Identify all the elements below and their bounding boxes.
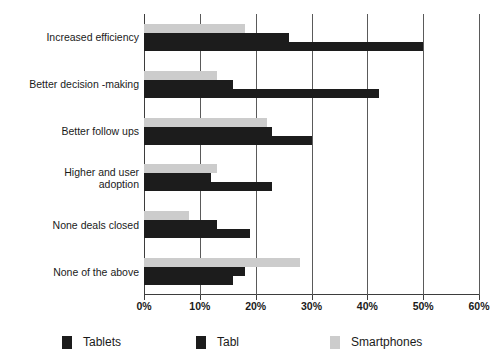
category-label: Better decision -making — [5, 78, 139, 90]
bar-tabl — [144, 267, 245, 276]
category-label: Better follow ups — [5, 125, 139, 137]
bar-group — [144, 248, 479, 295]
bar-group — [144, 155, 479, 202]
bar-tablets — [144, 182, 272, 191]
bar-smartphones — [144, 118, 267, 127]
tick-label-0: 0% — [136, 300, 151, 312]
legend-label: Tabl — [217, 335, 239, 349]
bar-tabl — [144, 127, 272, 136]
bar-tablets — [144, 42, 423, 51]
tick-label-30: 30% — [301, 300, 322, 312]
category-label: None of the above — [5, 266, 139, 278]
bar-group — [144, 14, 479, 61]
legend-swatch-icon — [330, 336, 340, 349]
legend-item-smartphones[interactable]: Smartphones — [330, 335, 422, 349]
tick-label-40: 40% — [357, 300, 378, 312]
bar-group — [144, 201, 479, 248]
tick-label-60: 60% — [468, 300, 489, 312]
bar-group — [144, 108, 479, 155]
legend-swatch-icon — [62, 336, 72, 349]
bar-tabl — [144, 220, 217, 229]
bar-smartphones — [144, 211, 189, 220]
legend-item-tabl[interactable]: Tabl — [196, 335, 239, 349]
legend-label: Tablets — [83, 335, 121, 349]
bar-tablets — [144, 136, 312, 145]
category-label: Higher and user adoption — [5, 166, 139, 190]
bar-smartphones — [144, 71, 217, 80]
tick-label-10: 10% — [189, 300, 210, 312]
bar-tablets — [144, 276, 233, 285]
bar-smartphones — [144, 24, 245, 33]
legend-label: Smartphones — [351, 335, 422, 349]
legend-item-tablets[interactable]: Tablets — [62, 335, 121, 349]
bar-tabl — [144, 33, 289, 42]
bar-group — [144, 61, 479, 108]
bar-tablets — [144, 89, 379, 98]
chart-legend: TabletsTablSmartphones — [0, 331, 484, 363]
category-label: Increased efficiency — [5, 31, 139, 43]
plot-area — [144, 14, 479, 295]
category-label: None deals closed — [5, 219, 139, 231]
gridline-60 — [479, 14, 480, 295]
tick-label-20: 20% — [245, 300, 266, 312]
legend-swatch-icon — [196, 336, 206, 349]
tick-label-50: 50% — [413, 300, 434, 312]
bar-smartphones — [144, 164, 217, 173]
bar-tabl — [144, 80, 233, 89]
bar-tablets — [144, 229, 250, 238]
bar-tabl — [144, 173, 211, 182]
bar-smartphones — [144, 258, 300, 267]
